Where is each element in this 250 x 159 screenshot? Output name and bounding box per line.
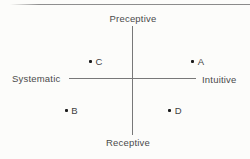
axis-label-left: Systematic <box>12 73 60 84</box>
point-label: C <box>95 57 102 67</box>
top-divider-rule <box>10 4 250 5</box>
axis-label-right: Intuitive <box>202 74 237 85</box>
point-marker <box>89 60 92 63</box>
axis-label-top: Preceptive <box>110 13 157 24</box>
point-marker <box>191 60 194 63</box>
point-label: B <box>71 106 77 116</box>
point-marker <box>168 109 171 112</box>
point-label: D <box>175 106 182 116</box>
vertical-axis-line <box>132 26 133 135</box>
horizontal-axis-line <box>69 78 196 79</box>
point-label: A <box>198 57 204 67</box>
point-marker <box>65 109 68 112</box>
quadrant-chart-page: Preceptive Receptive Systematic Intuitiv… <box>0 0 250 159</box>
axis-label-bottom: Receptive <box>106 137 150 148</box>
